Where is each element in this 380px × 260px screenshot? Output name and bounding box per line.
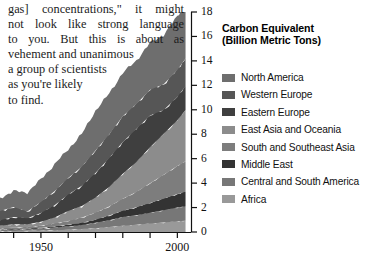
body-text-word: to bbox=[8, 32, 18, 47]
legend-swatch-icon bbox=[222, 160, 235, 168]
legend-item-list: North AmericaWestern EuropeEastern Europ… bbox=[222, 69, 378, 208]
body-text-line: notlooklikestronglanguage bbox=[8, 17, 184, 32]
legend-swatch-icon bbox=[222, 195, 235, 203]
body-text-word: about bbox=[136, 32, 163, 47]
legend-item-label: Africa bbox=[241, 194, 266, 205]
y-axis-tick-label: 16 bbox=[201, 30, 213, 42]
body-text: gas]concentrations,"itmightnotlooklikest… bbox=[8, 2, 184, 108]
body-text-line: gas]concentrations,"itmight bbox=[8, 2, 184, 17]
body-text-line: vehement and unanimous bbox=[8, 47, 184, 62]
y-axis-tick-label: 2 bbox=[201, 202, 207, 214]
legend-item-label: Middle East bbox=[241, 159, 293, 170]
body-text-word: is bbox=[117, 32, 125, 47]
figure-root: 024681012141618 19502000 gas]concentrati… bbox=[0, 0, 380, 260]
body-text-line: toyou.Butthisisaboutas bbox=[8, 32, 184, 47]
y-axis-tick-label: 10 bbox=[201, 104, 213, 116]
body-text-word: as bbox=[174, 32, 184, 47]
body-text-word: like bbox=[68, 17, 86, 32]
legend-item-label: Western Europe bbox=[241, 89, 312, 100]
body-text-line: as you're likely bbox=[8, 77, 184, 92]
body-text-word: this bbox=[89, 32, 107, 47]
legend-item: North America bbox=[222, 69, 378, 86]
legend-item: Central and South America bbox=[222, 173, 378, 190]
x-axis-tick-label: 1950 bbox=[21, 241, 61, 253]
legend-item-label: North America bbox=[241, 72, 304, 83]
body-text-word: might bbox=[155, 2, 184, 17]
legend-item: Middle East bbox=[222, 156, 378, 173]
legend-swatch-icon bbox=[222, 126, 235, 134]
legend-item-label: Central and South America bbox=[241, 176, 359, 187]
chart-legend: Carbon Equivalent (Billion Metric Tons) … bbox=[222, 22, 378, 208]
legend-swatch-icon bbox=[222, 91, 235, 99]
body-text-word: look bbox=[35, 17, 57, 32]
body-text-line: to find. bbox=[8, 93, 184, 108]
legend-swatch-icon bbox=[222, 108, 235, 116]
y-axis-tick-label: 0 bbox=[201, 226, 207, 238]
legend-title-line1: Carbon Equivalent bbox=[222, 22, 378, 34]
legend-swatch-icon bbox=[222, 178, 235, 186]
y-axis-tick-label: 8 bbox=[201, 128, 207, 140]
legend-item: Eastern Europe bbox=[222, 104, 378, 121]
body-text-word: strong bbox=[98, 17, 129, 32]
y-axis-tick-label: 6 bbox=[201, 153, 207, 165]
legend-item-label: Eastern Europe bbox=[241, 107, 310, 118]
body-text-word: not bbox=[8, 17, 24, 32]
body-text-word: gas] bbox=[8, 2, 29, 17]
legend-item: Western Europe bbox=[222, 86, 378, 103]
y-axis-tick-label: 4 bbox=[201, 177, 207, 189]
body-text-line: a group of scientists bbox=[8, 62, 184, 77]
x-axis-tick-label: 2000 bbox=[157, 241, 197, 253]
legend-title: Carbon Equivalent (Billion Metric Tons) bbox=[222, 22, 378, 47]
body-text-word: language bbox=[140, 17, 184, 32]
y-axis-tick-label: 14 bbox=[201, 55, 213, 67]
y-axis-tick-label: 12 bbox=[201, 79, 213, 91]
legend-item: East Asia and Oceania bbox=[222, 121, 378, 138]
legend-item: Africa bbox=[222, 191, 378, 208]
body-text-word: concentrations," bbox=[42, 2, 122, 17]
legend-item-label: South and Southeast Asia bbox=[241, 142, 355, 153]
body-text-word: But bbox=[60, 32, 78, 47]
body-text-word: you. bbox=[28, 32, 50, 47]
legend-item: South and Southeast Asia bbox=[222, 138, 378, 155]
y-axis-tick-label: 18 bbox=[201, 6, 213, 18]
body-text-word: it bbox=[135, 2, 142, 17]
legend-title-line2: (Billion Metric Tons) bbox=[222, 34, 378, 46]
legend-swatch-icon bbox=[222, 74, 235, 82]
legend-swatch-icon bbox=[222, 143, 235, 151]
legend-item-label: East Asia and Oceania bbox=[241, 124, 341, 135]
